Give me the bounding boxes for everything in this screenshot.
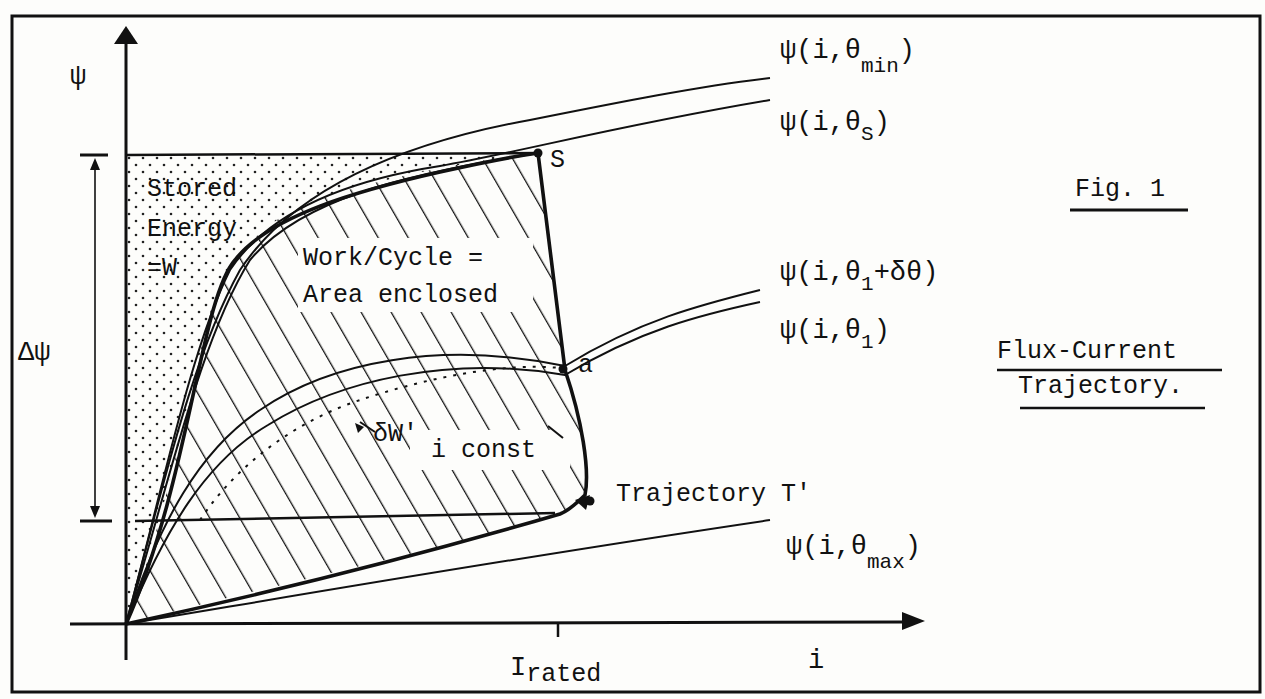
svg-text:ψ(i,θmin): ψ(i,θmin) <box>780 36 915 78</box>
label-theta-max: ψ(i,θmax) <box>786 532 921 574</box>
caption-line2: Trajectory. <box>1018 372 1183 401</box>
label-theta-min: ψ(i,θmin) <box>780 36 915 78</box>
work-cycle-line1: Work/Cycle = <box>303 244 483 273</box>
delta-psi-label: Δψ <box>18 338 50 368</box>
flux-current-diagram: ψ Δψ Stored Energy =W Work/Cycle = Area … <box>0 0 1265 699</box>
x-axis-arrow-icon <box>902 612 925 630</box>
stored-energy-line1: Stored <box>147 175 237 204</box>
top-flux-line <box>126 153 538 155</box>
i-rated-label: Irated <box>510 653 601 689</box>
caption-line1: Flux-Current <box>997 337 1177 366</box>
figure-canvas: ψ Δψ Stored Energy =W Work/Cycle = Area … <box>0 0 1265 699</box>
trajectory-end-marker <box>586 497 595 506</box>
svg-text:ψ(i,θ1+δθ): ψ(i,θ1+δθ) <box>780 258 938 296</box>
point-a-label: a <box>578 351 593 380</box>
figure-title: Fig. 1 <box>1075 175 1165 204</box>
svg-text:Irated: Irated <box>510 653 601 689</box>
point-s-marker <box>534 149 543 158</box>
label-theta-1: ψ(i,θ1) <box>780 316 890 354</box>
point-a-marker <box>559 365 568 374</box>
svg-text:ψ(i,θmax): ψ(i,θmax) <box>786 532 921 574</box>
y-axis-label: ψ <box>70 62 86 92</box>
delta-w-label: δW' <box>373 420 418 449</box>
x-axis-label: i <box>808 646 824 676</box>
y-axis-arrow-icon <box>114 26 138 44</box>
label-theta-1-plus: ψ(i,θ1+δθ) <box>780 258 938 296</box>
trajectory-label: Trajectory T' <box>616 480 811 509</box>
stored-energy-line2: Energy <box>147 215 237 244</box>
label-theta-s: ψ(i,θS) <box>780 108 890 146</box>
svg-text:ψ(i,θS): ψ(i,θS) <box>780 108 890 146</box>
point-s-label: S <box>550 146 565 175</box>
work-cycle-line2: Area enclosed <box>303 281 498 310</box>
x-axis <box>70 622 905 624</box>
stored-energy-line3: =W <box>147 254 177 283</box>
i-const-label: i const <box>431 436 536 465</box>
svg-text:ψ(i,θ1): ψ(i,θ1) <box>780 316 890 354</box>
